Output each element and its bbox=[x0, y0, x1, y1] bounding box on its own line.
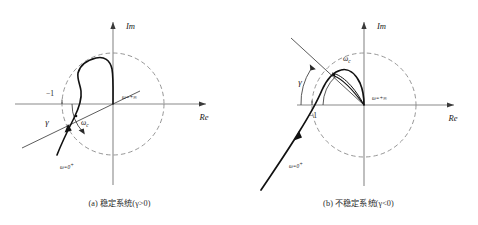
imag-axis-arrowhead bbox=[110, 22, 115, 29]
caption-stable-system: (a) 稳定系统(γ>0) bbox=[0, 196, 239, 208]
label-omega-infinity: ω=+∞ bbox=[372, 95, 387, 101]
label-real-axis: Re bbox=[198, 112, 208, 122]
label-omega-c-subscript: c bbox=[86, 122, 89, 128]
nyquist-plot-stable: −1 Re Im ω=+∞ γ ωc ω=0+ bbox=[0, 0, 239, 196]
imag-axis-arrowhead bbox=[361, 22, 366, 29]
label-imag-axis: Im bbox=[376, 21, 386, 31]
label-omega-c: ωc bbox=[343, 54, 351, 64]
nyquist-curve bbox=[261, 70, 364, 190]
nyquist-curve bbox=[57, 57, 113, 155]
gain-crossover-line bbox=[291, 38, 364, 105]
label-omega-zero: ω=0+ bbox=[289, 161, 303, 169]
label-omega-c: ωc bbox=[81, 118, 89, 128]
label-omega-zero-superscript: + bbox=[70, 162, 74, 168]
phase-margin-arc-arrowhead bbox=[79, 129, 85, 135]
crossover-point-marker bbox=[75, 115, 78, 118]
label-omega-zero-superscript: + bbox=[299, 161, 303, 167]
real-axis-arrowhead bbox=[199, 101, 206, 106]
caption-unstable-system: (b) 不稳定系统(γ<0) bbox=[239, 196, 478, 208]
panel-unstable-system: −1 Re Im ω=+∞ γ ωc ω=0+ (b) 不稳定系统(γ<0) bbox=[239, 0, 478, 225]
real-axis-arrowhead bbox=[447, 102, 454, 107]
label-omega-zero: ω=0+ bbox=[60, 162, 74, 170]
label-omega-c-subscript: c bbox=[348, 58, 351, 64]
figure-root: −1 Re Im ω=+∞ γ ωc ω=0+ (a) 稳定系统(γ>0) bbox=[0, 0, 478, 225]
label-real-axis: Re bbox=[447, 113, 457, 123]
label-omega-zero-base: ω=0 bbox=[289, 163, 299, 169]
label-omega-infinity: ω=+∞ bbox=[122, 94, 137, 100]
nyquist-plot-unstable: −1 Re Im ω=+∞ γ ωc ω=0+ bbox=[239, 0, 478, 196]
label-gamma: γ bbox=[45, 117, 49, 127]
crossover-point-marker bbox=[333, 74, 336, 77]
label-imag-axis: Im bbox=[125, 21, 135, 31]
label-minus-one: −1 bbox=[309, 111, 317, 120]
label-omega-zero-base: ω=0 bbox=[60, 164, 70, 170]
label-minus-one: −1 bbox=[46, 89, 54, 98]
label-gamma: γ bbox=[298, 77, 302, 87]
panel-stable-system: −1 Re Im ω=+∞ γ ωc ω=0+ (a) 稳定系统(γ>0) bbox=[0, 0, 239, 225]
phase-margin-arc-lower bbox=[301, 69, 311, 105]
phase-margin-arc bbox=[323, 76, 336, 105]
